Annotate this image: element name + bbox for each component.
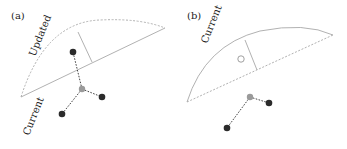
node-dark xyxy=(266,100,273,107)
panel-b-label: (b) xyxy=(187,10,201,21)
node-dark xyxy=(99,94,106,101)
node-center xyxy=(79,86,85,92)
diagram-canvas: (a) Updated Current (b) xyxy=(0,0,347,149)
divider-line xyxy=(245,40,257,70)
connector xyxy=(73,52,82,89)
current-label: Current xyxy=(21,96,46,137)
panel-a: (a) Updated Current xyxy=(11,10,165,137)
hollow-node xyxy=(238,56,244,62)
node-dark xyxy=(224,125,231,132)
node-center xyxy=(247,94,253,100)
updated-label: Updated xyxy=(27,13,54,58)
current-label: Current xyxy=(199,4,224,45)
chord-dashed xyxy=(187,35,333,102)
node-dark xyxy=(59,111,66,118)
connector xyxy=(62,89,82,114)
node-dark xyxy=(70,49,77,56)
connector xyxy=(227,97,250,128)
panel-b: (b) Current xyxy=(187,4,333,132)
divider-line xyxy=(78,32,92,62)
panel-a-label: (a) xyxy=(11,10,25,21)
